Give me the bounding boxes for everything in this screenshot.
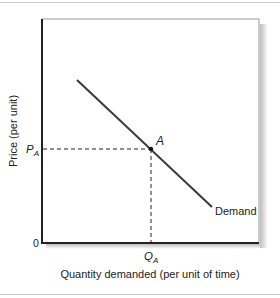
- quantity-a-label: QA: [144, 250, 158, 265]
- point-a-marker: [149, 147, 153, 151]
- frame-shadow-right: [260, 24, 268, 248]
- origin-label: 0: [33, 237, 39, 249]
- point-a-label: A: [155, 134, 164, 148]
- price-a-label: PA: [26, 143, 39, 158]
- y-axis-title: Price (per unit): [7, 95, 19, 167]
- demand-chart: A Demand PA QA 0 Quantity demanded (per …: [0, 0, 280, 298]
- frame-shadow-bottom: [46, 244, 260, 249]
- demand-label: Demand: [215, 205, 257, 217]
- x-axis-title: Quantity demanded (per unit of time): [60, 268, 239, 280]
